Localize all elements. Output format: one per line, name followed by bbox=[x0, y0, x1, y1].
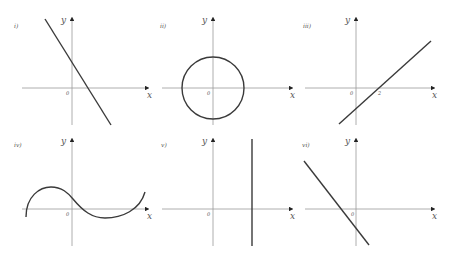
x-axis-label: x bbox=[432, 90, 437, 100]
y-axis-label: y bbox=[344, 15, 351, 25]
origin-label: 0 bbox=[66, 211, 70, 217]
x-axis-label: x bbox=[147, 211, 152, 221]
graph-curve bbox=[26, 187, 145, 218]
panel-iii: iii) y x 0 2 bbox=[303, 15, 437, 125]
y-axis-label: y bbox=[60, 136, 67, 146]
y-axis-label: y bbox=[201, 15, 208, 25]
panel-label: v) bbox=[161, 141, 167, 148]
graphs-figure: i) y x 0 ii) y x 0 iii) y x 0 2 iv) y x … bbox=[0, 0, 456, 262]
y-axis-label: y bbox=[201, 136, 208, 146]
x-axis-label: x bbox=[147, 90, 152, 100]
panel-iv: iv) y x 0 bbox=[14, 136, 152, 246]
x-axis-label: x bbox=[290, 90, 295, 100]
panel-label: i) bbox=[14, 22, 19, 29]
panel-ii: ii) y x 0 bbox=[160, 15, 295, 125]
panel-vi: vi) y x 0 bbox=[302, 136, 437, 246]
panel-v: v) y x 0 bbox=[161, 136, 295, 246]
origin-label: 0 bbox=[66, 90, 70, 96]
y-axis-label: y bbox=[60, 15, 67, 25]
origin-label: 0 bbox=[207, 211, 211, 217]
panel-label: iv) bbox=[14, 141, 22, 148]
panel-label: vi) bbox=[302, 141, 310, 148]
x-intercept-label: 2 bbox=[377, 90, 381, 96]
x-axis-label: x bbox=[290, 211, 295, 221]
origin-label: 0 bbox=[350, 90, 354, 96]
panel-i: i) y x 0 bbox=[14, 15, 152, 125]
graph-line bbox=[45, 19, 111, 125]
origin-label: 0 bbox=[351, 211, 355, 217]
y-axis-label: y bbox=[344, 136, 351, 146]
x-axis-label: x bbox=[432, 211, 437, 221]
panel-label: iii) bbox=[303, 22, 312, 29]
panel-label: ii) bbox=[160, 22, 167, 29]
graph-line bbox=[339, 41, 431, 124]
origin-label: 0 bbox=[207, 90, 211, 96]
graph-line bbox=[304, 161, 369, 245]
